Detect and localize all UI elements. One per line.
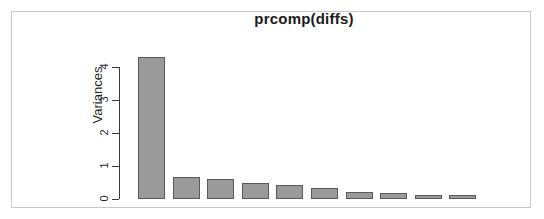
y-axis-line [119,67,120,199]
bar [276,185,303,199]
bar [380,193,407,199]
bar [173,177,200,199]
bar [138,57,165,199]
screeplot-screenshot: prcomp(diffs) Variances 01234 [0,0,544,219]
y-tick-label: 1 [99,159,110,173]
bar [311,188,338,199]
bar [242,183,269,200]
y-tick-mark [112,199,119,200]
bar [346,192,373,199]
bar [449,195,476,199]
y-tick-label: 4 [99,60,110,74]
y-tick-mark [112,166,119,167]
y-tick-label: 2 [99,126,110,140]
bar [207,179,234,199]
bar [415,195,442,199]
y-tick-mark [112,67,119,68]
y-tick-label: 3 [99,93,110,107]
y-tick-mark [112,133,119,134]
plot-area: Variances 01234 [0,0,544,219]
y-tick-mark [112,100,119,101]
y-tick-label: 0 [99,192,110,206]
